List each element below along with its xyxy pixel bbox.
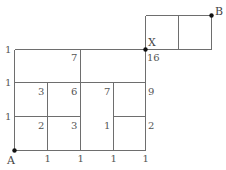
left-count: 1	[5, 111, 11, 122]
node-count: 2	[148, 120, 154, 131]
node-count: 9	[148, 86, 154, 97]
node-count: 2	[38, 120, 44, 131]
path-count-grid: A B X 1 1 1 1 1 1 1 7 16 3 6 7 9 2 3 1 2	[0, 0, 226, 170]
node-count: 3	[38, 86, 44, 97]
bottom-count: 1	[143, 153, 149, 164]
point-b-label: B	[215, 5, 223, 18]
bottom-count: 1	[45, 153, 51, 164]
point-a-label: A	[6, 154, 16, 167]
node-count: 7	[71, 52, 77, 63]
node-count: 1	[104, 120, 110, 131]
bottom-count: 1	[111, 153, 117, 164]
point-x-label: X	[148, 36, 156, 49]
node-count: 7	[104, 86, 110, 97]
x-count: 16	[147, 52, 160, 63]
left-count: 1	[5, 77, 11, 88]
node-count: 3	[71, 120, 77, 131]
node-count: 6	[71, 86, 77, 97]
point-b-marker	[209, 13, 213, 17]
bottom-count: 1	[78, 153, 84, 164]
left-count: 1	[5, 44, 11, 55]
point-a-marker	[12, 148, 16, 152]
